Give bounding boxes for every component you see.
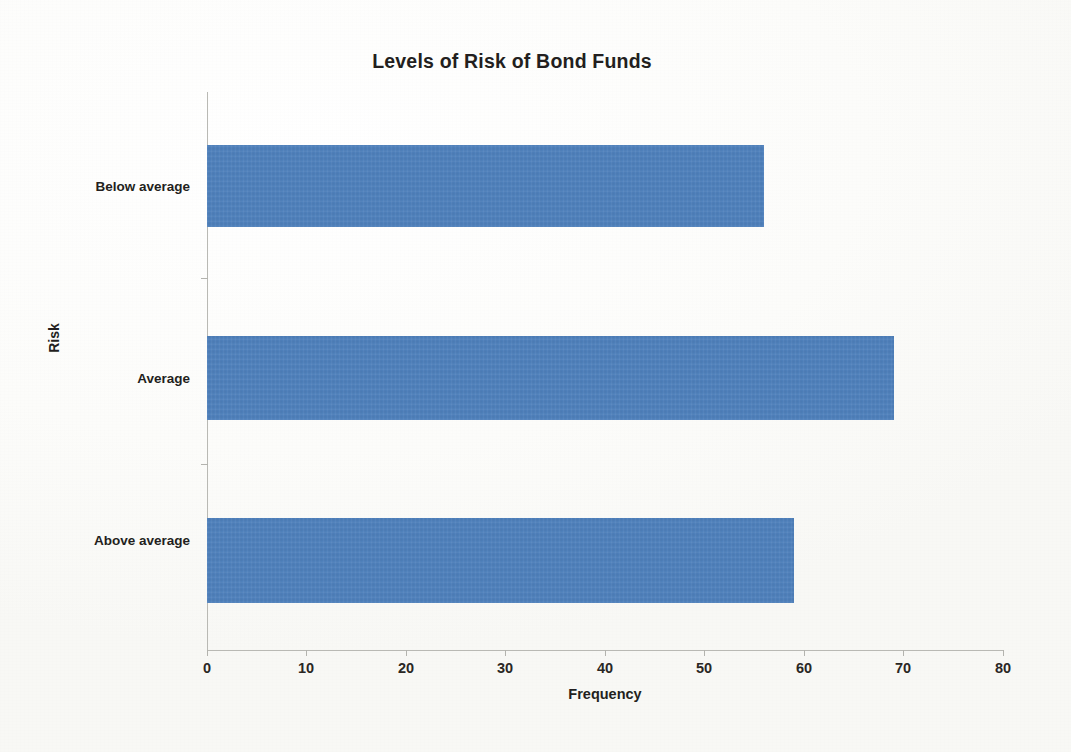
y-axis-category-label-below-average: Below average (0, 179, 190, 194)
x-axis-tick (1003, 650, 1004, 656)
y-axis-title: Risk (46, 298, 62, 378)
x-axis-tick (605, 650, 606, 656)
x-axis-tick-label: 0 (177, 660, 237, 676)
bar-average[interactable] (207, 336, 894, 420)
y-axis-tick (201, 464, 208, 465)
y-axis-category-label-average: Average (0, 371, 190, 386)
x-axis-tick-label: 20 (376, 660, 436, 676)
x-axis-tick-label: 80 (973, 660, 1033, 676)
x-axis-tick-label: 50 (674, 660, 734, 676)
bar-chart: Levels of Risk of Bond Funds 0 10 20 30 … (0, 0, 1071, 752)
x-axis-tick-label: 40 (575, 660, 635, 676)
x-axis-tick (505, 650, 506, 656)
x-axis-tick-label: 60 (774, 660, 834, 676)
x-axis-tick-label: 10 (276, 660, 336, 676)
x-axis-tick (903, 650, 904, 656)
x-axis-tick (306, 650, 307, 656)
y-axis-category-label-above-average: Above average (0, 533, 190, 548)
x-axis-tick (207, 650, 208, 656)
x-axis-tick-label: 30 (475, 660, 535, 676)
x-axis-tick (704, 650, 705, 656)
x-axis-tick (804, 650, 805, 656)
x-axis-tick-label: 70 (873, 660, 933, 676)
y-axis-tick (201, 278, 208, 279)
bar-above-average[interactable] (207, 518, 794, 603)
x-axis-title: Frequency (207, 686, 1003, 702)
x-axis-tick (406, 650, 407, 656)
chart-title: Levels of Risk of Bond Funds (0, 50, 1024, 73)
bar-below-average[interactable] (207, 145, 764, 227)
